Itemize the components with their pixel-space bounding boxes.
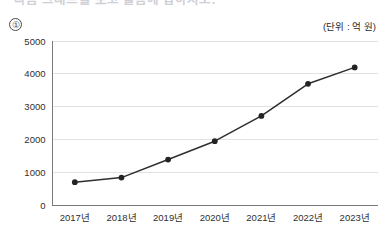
y-axis-tick-labels: 010002000300040005000 (24, 36, 45, 211)
y-axis-tick-label: 1000 (24, 167, 45, 178)
data-point-marker (305, 81, 311, 87)
x-axis-tick-label: 2017년 (60, 212, 90, 223)
chart-figure: 다음 그래프를 보고 물음에 답하시오. ① (단위 : 억 원) 010002… (0, 0, 387, 242)
y-axis-tick-label: 5000 (24, 36, 45, 47)
x-axis-tick-label: 2018년 (106, 212, 136, 223)
y-axis-tick-label: 0 (40, 200, 45, 211)
x-axis-tick-label: 2023년 (340, 212, 370, 223)
x-axis-tick-label: 2020년 (200, 212, 230, 223)
data-point-marker (119, 175, 125, 181)
line-chart-plot: 010002000300040005000 2017년2018년2019년202… (0, 0, 387, 242)
y-axis-tick-label: 4000 (24, 68, 45, 79)
data-point-markers (72, 65, 358, 186)
x-axis-tick-label: 2022년 (293, 212, 323, 223)
data-series (75, 67, 355, 182)
data-point-marker (212, 138, 218, 144)
gridlines (52, 42, 379, 173)
chart-svg: 010002000300040005000 2017년2018년2019년202… (0, 0, 387, 242)
data-point-marker (72, 179, 78, 185)
x-axis-tick-labels: 2017년2018년2019년2020년2021년2022년2023년 (60, 212, 370, 223)
x-axis-tick-label: 2021년 (246, 212, 276, 223)
y-axis-tick-label: 3000 (24, 101, 45, 112)
series-line (75, 67, 355, 182)
x-axis-tick-label: 2019년 (153, 212, 183, 223)
data-point-marker (165, 157, 171, 163)
data-point-marker (258, 113, 264, 119)
data-point-marker (352, 65, 358, 71)
y-axis-tick-label: 2000 (24, 134, 45, 145)
